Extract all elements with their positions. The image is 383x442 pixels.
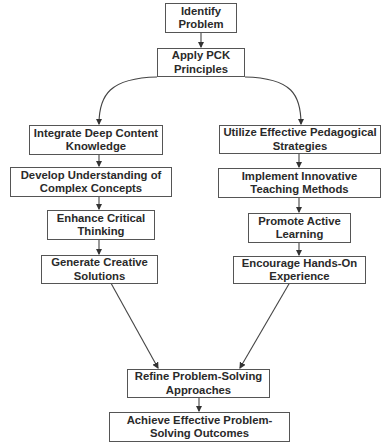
edge-apply-utilize bbox=[245, 77, 301, 124]
node-integrate-content-knowledge: Integrate Deep Content Knowledge bbox=[29, 125, 163, 155]
edge-apply-integrate bbox=[99, 77, 157, 124]
node-generate-creative-solutions: Generate Creative Solutions bbox=[41, 255, 158, 284]
node-promote-active-learning: Promote Active Learning bbox=[248, 213, 351, 243]
edge-generate-refine bbox=[107, 276, 158, 368]
node-achieve-outcomes: Achieve Effective Problem-Solving Outcom… bbox=[109, 412, 290, 442]
node-develop-understanding: Develop Understanding of Complex Concept… bbox=[10, 167, 172, 197]
node-enhance-critical-thinking: Enhance Critical Thinking bbox=[47, 210, 155, 240]
node-encourage-hands-on: Encourage Hands-On Experience bbox=[233, 256, 366, 284]
node-implement-teaching-methods: Implement Innovative Teaching Methods bbox=[218, 168, 381, 198]
edge-encourage-refine bbox=[240, 277, 293, 368]
node-utilize-pedagogical-strategies: Utilize Effective Pedagogical Strategies bbox=[219, 125, 381, 154]
node-refine-approaches: Refine Problem-Solving Approaches bbox=[127, 369, 270, 398]
node-apply-pck-principles: Apply PCK Principles bbox=[157, 48, 245, 77]
node-identify-problem: Identify Problem bbox=[165, 3, 237, 33]
